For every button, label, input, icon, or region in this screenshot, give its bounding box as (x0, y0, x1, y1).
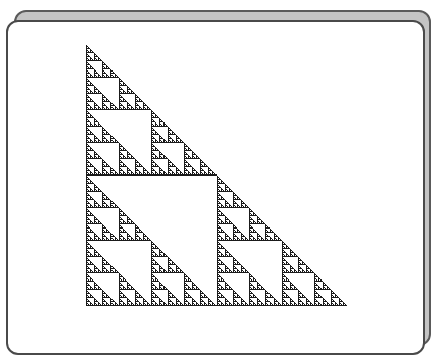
sierpinski-triangle-figure (86, 45, 347, 306)
